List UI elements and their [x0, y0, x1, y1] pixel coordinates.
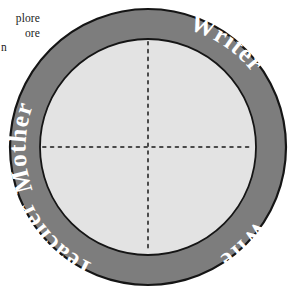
figure-canvas: plore ore n Mother Writ: [0, 0, 296, 295]
body-text-fragment: plore ore n: [0, 0, 46, 55]
body-text-line-3: n: [0, 40, 46, 55]
body-text-line-1: plore: [0, 11, 46, 26]
body-text-line-2: ore: [0, 26, 46, 41]
